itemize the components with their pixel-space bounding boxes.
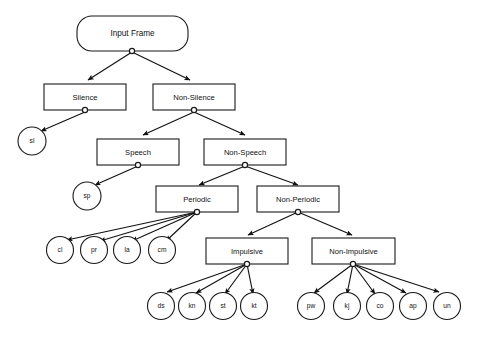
st-label: st bbox=[220, 302, 225, 309]
leaf-node-cl[interactable]: cl bbox=[47, 237, 74, 264]
leaf-node-st[interactable]: st bbox=[210, 293, 237, 320]
edge-non-silence-to-non-speech bbox=[194, 112, 245, 135]
leaf-node-pw[interactable]: pw bbox=[298, 293, 325, 320]
node-non-periodic[interactable]: Non-Periodic bbox=[257, 186, 339, 215]
input-frame-connector-dot bbox=[129, 48, 134, 53]
silence-connector-dot bbox=[82, 107, 87, 112]
leaf-node-kn[interactable]: kn bbox=[179, 293, 206, 320]
non-silence-connector-dot bbox=[191, 107, 196, 112]
edge-silence-to-sl bbox=[41, 112, 85, 131]
edge-impulsive-to-kn bbox=[196, 264, 247, 293]
pr-label: pr bbox=[91, 246, 98, 254]
cm-label: cm bbox=[158, 246, 167, 253]
impulsive-label: Impulsive bbox=[231, 247, 263, 256]
edge-non-periodic-to-impulsive bbox=[248, 212, 298, 235]
node-non-speech[interactable]: Non-Speech bbox=[204, 139, 286, 168]
sp-label: sp bbox=[84, 192, 91, 200]
co-label: co bbox=[377, 302, 384, 309]
node-silence[interactable]: Silence bbox=[44, 84, 126, 113]
impulsive-connector-dot bbox=[244, 261, 249, 266]
leaf-node-kj[interactable]: kj bbox=[334, 293, 361, 320]
leaf-node-sp[interactable]: sp bbox=[73, 182, 101, 210]
node-non-impulsive[interactable]: Non-Impulsive bbox=[312, 238, 395, 267]
edge-non-speech-to-non-periodic bbox=[245, 166, 298, 185]
edge-speech-to-sp bbox=[95, 166, 138, 185]
leaf-node-la[interactable]: la bbox=[114, 237, 141, 264]
leaf-node-pr[interactable]: pr bbox=[81, 237, 108, 264]
edge-impulsive-to-ds bbox=[167, 264, 247, 292]
cl-label: cl bbox=[58, 246, 63, 253]
edge-non-speech-to-periodic bbox=[199, 166, 245, 185]
ap-label: ap bbox=[409, 302, 417, 310]
edge-non-silence-to-speech bbox=[143, 112, 194, 135]
node-non-silence[interactable]: Non-Silence bbox=[153, 84, 235, 113]
pw-label: pw bbox=[307, 302, 316, 310]
classification-tree-diagram: Input Frame Silence Non-Silence sl Speec… bbox=[0, 0, 483, 341]
leaf-node-ap[interactable]: ap bbox=[400, 293, 427, 320]
kj-label: kj bbox=[345, 302, 350, 310]
edge-non-periodic-to-non-impulsive bbox=[298, 212, 352, 235]
non-periodic-label: Non-Periodic bbox=[276, 195, 320, 204]
non-periodic-connector-dot bbox=[295, 209, 300, 214]
node-periodic[interactable]: Periodic bbox=[156, 186, 238, 215]
edge-non-impulsive-to-pw bbox=[314, 264, 353, 293]
edge-impulsive-to-kt bbox=[247, 264, 253, 294]
speech-label: Speech bbox=[125, 148, 151, 157]
node-speech[interactable]: Speech bbox=[97, 139, 179, 168]
un-label: un bbox=[443, 302, 451, 309]
edge-root-to-silence bbox=[88, 52, 132, 80]
non-impulsive-label: Non-Impulsive bbox=[329, 247, 378, 256]
non-silence-label: Non-Silence bbox=[173, 93, 214, 102]
node-input-frame[interactable]: Input Frame bbox=[77, 16, 188, 54]
kn-label: kn bbox=[189, 302, 196, 309]
leaf-node-co[interactable]: co bbox=[367, 293, 394, 320]
silence-label: Silence bbox=[73, 93, 98, 102]
leaf-node-cm[interactable]: cm bbox=[149, 237, 176, 264]
sl-label: sl bbox=[30, 137, 35, 144]
leaf-node-sl[interactable]: sl bbox=[18, 127, 46, 155]
speech-connector-dot bbox=[135, 162, 140, 167]
edge-periodic-to-cl bbox=[67, 212, 197, 240]
non-speech-label: Non-Speech bbox=[224, 148, 266, 157]
leaf-node-un[interactable]: un bbox=[434, 293, 461, 320]
edge-periodic-to-pr bbox=[100, 212, 197, 241]
kt-label: kt bbox=[251, 302, 256, 309]
non-speech-connector-dot bbox=[242, 162, 247, 167]
edge-impulsive-to-st bbox=[225, 264, 247, 294]
leaf-node-kt[interactable]: kt bbox=[241, 293, 268, 320]
periodic-connector-dot bbox=[194, 209, 199, 214]
la-label: la bbox=[124, 246, 129, 253]
non-impulsive-connector-dot bbox=[350, 261, 355, 266]
diagram-root: Input Frame Silence Non-Silence sl Speec… bbox=[0, 0, 483, 341]
edge-root-to-non-silence bbox=[132, 52, 190, 80]
input-frame-label: Input Frame bbox=[110, 29, 155, 38]
ds-label: ds bbox=[158, 302, 166, 309]
edge-non-impulsive-to-co bbox=[353, 264, 375, 294]
node-impulsive[interactable]: Impulsive bbox=[206, 238, 288, 267]
leaf-node-ds[interactable]: ds bbox=[148, 293, 175, 320]
periodic-label: Periodic bbox=[183, 195, 211, 204]
